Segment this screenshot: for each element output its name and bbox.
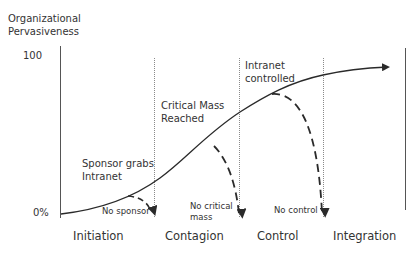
growth-curve [61,67,388,214]
milestone-line: Critical Mass [161,99,224,112]
milestone-line: controlled [245,72,295,85]
failure-no-sponsor: No sponsor [102,206,150,217]
y-axis-title-line1: Organizational [8,12,81,25]
y-axis-title-line2: Pervasiveness [8,25,81,38]
phase-initiation: Initiation [73,229,124,243]
milestone-line: Reached [161,112,224,125]
failure-line: No critical [190,201,233,212]
intranet-evolution-diagram: Organizational Pervasiveness 100 0% Spon… [0,0,417,253]
phase-integration: Integration [333,229,396,243]
failure-no-critical-mass: No critical mass [190,201,233,223]
milestone-critical-mass: Critical Mass Reached [161,99,224,125]
milestone-line: Intranet [245,59,295,72]
milestone-intranet-controlled: Intranet controlled [245,59,295,85]
milestone-line: Sponsor grabs [82,157,154,170]
phase-control: Control [257,229,299,243]
y-tick-0: 0% [33,206,49,219]
milestone-line: Intranet [82,170,154,183]
phase-contagion: Contagion [165,229,224,243]
milestone-sponsor-grabs: Sponsor grabs Intranet [82,157,154,183]
failure-no-control: No control [274,205,318,216]
y-axis-title: Organizational Pervasiveness [8,12,81,38]
no-control-branch [272,94,322,213]
y-tick-100: 100 [23,49,42,62]
failure-line: mass [190,212,233,223]
